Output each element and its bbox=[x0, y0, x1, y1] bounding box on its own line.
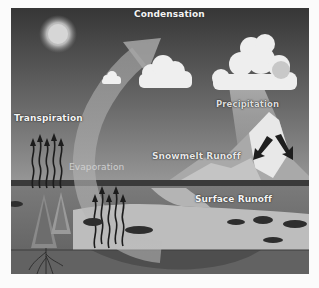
label-surface-runoff: Surface Runoff bbox=[195, 194, 272, 204]
label-evaporation: Evaporation bbox=[69, 162, 124, 172]
label-condensation: Condensation bbox=[134, 9, 205, 19]
water-cycle-diagram: Condensation Precipitation Transpiration… bbox=[11, 8, 309, 274]
label-snowmelt-runoff: Snowmelt Runoff bbox=[152, 151, 241, 161]
label-precipitation: Precipitation bbox=[216, 99, 279, 109]
diagram-artwork bbox=[11, 8, 309, 274]
sun-icon bbox=[39, 15, 77, 53]
label-transpiration: Transpiration bbox=[14, 113, 83, 123]
